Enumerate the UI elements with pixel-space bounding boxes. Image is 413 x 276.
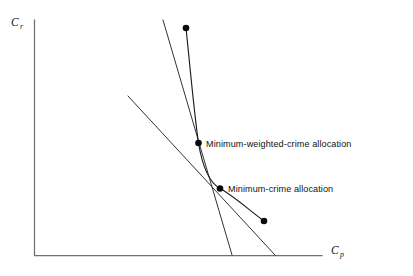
chart-figure: C r C p Minimum-weighted-crime allocatio… <box>0 0 413 276</box>
annotation-minimum-crime-allocation: Minimum-crime allocation <box>228 184 333 194</box>
minimum-crime-allocation-dot <box>217 185 224 192</box>
data-points-group <box>183 25 268 225</box>
y-axis-label: C r <box>11 16 24 31</box>
x-axis-label-subscript: p <box>339 250 344 259</box>
y-axis-label-subscript: r <box>20 22 24 31</box>
x-axis-label-base: C <box>331 244 339 256</box>
shallow-tangent-line <box>128 96 275 255</box>
x-axis-label: C p <box>331 244 344 259</box>
y-axis-label-base: C <box>11 16 19 28</box>
curve-lower-endpoint-dot <box>261 218 268 225</box>
plot-canvas: C r C p Minimum-weighted-crime allocatio… <box>0 0 413 276</box>
annotation-minimum-weighted-crime-allocation: Minimum-weighted-crime allocation <box>206 139 352 149</box>
curve-upper-endpoint-dot <box>183 25 190 32</box>
tangent-lines-group <box>128 20 275 255</box>
minimum-weighted-crime-allocation-dot <box>195 140 202 147</box>
annotations-group: Minimum-weighted-crime allocation Minimu… <box>206 139 352 195</box>
